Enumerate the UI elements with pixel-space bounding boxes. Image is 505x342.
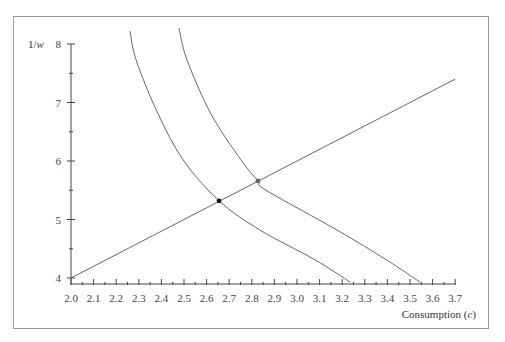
straight-line [71,79,455,278]
x-tick-label: 2.4 [155,292,169,304]
intersection-2-marker [256,178,261,183]
x-tick-label: 2.9 [268,292,282,304]
y-tick-label: 8 [56,38,62,50]
x-tick-label: 2.2 [109,292,123,304]
x-tick-label: 3.5 [403,292,417,304]
y-tick-label: 6 [56,155,62,167]
x-tick-label: 2.0 [64,292,78,304]
y-tick-label: 7 [56,97,62,109]
x-tick-label: 2.3 [132,292,146,304]
x-tick-label: 3.0 [290,292,304,304]
y-axis-label: 1/w [28,38,45,50]
x-tick-label: 2.7 [222,292,236,304]
x-axis-label: Consumption (c) [402,308,477,321]
inner-curve [130,31,350,282]
x-tick-label: 3.7 [448,292,462,304]
y-tick-label: 5 [56,214,62,226]
x-tick-label: 2.6 [200,292,214,304]
x-tick-label: 3.3 [358,292,372,304]
series-layer [71,28,455,282]
x-tick-label: 3.1 [313,292,327,304]
y-tick-label: 4 [56,272,62,284]
axes: 456782.02.12.22.32.42.52.62.72.82.93.03.… [56,38,463,304]
x-tick-label: 3.2 [335,292,349,304]
intersection-1-marker [217,198,222,203]
x-tick-label: 2.8 [245,292,259,304]
outer-curve [179,28,420,282]
x-tick-label: 3.6 [426,292,440,304]
x-tick-label: 2.5 [177,292,191,304]
chart-plot: 456782.02.12.22.32.42.52.62.72.82.93.03.… [0,0,505,342]
x-tick-label: 3.4 [381,292,395,304]
x-tick-label: 2.1 [87,292,101,304]
